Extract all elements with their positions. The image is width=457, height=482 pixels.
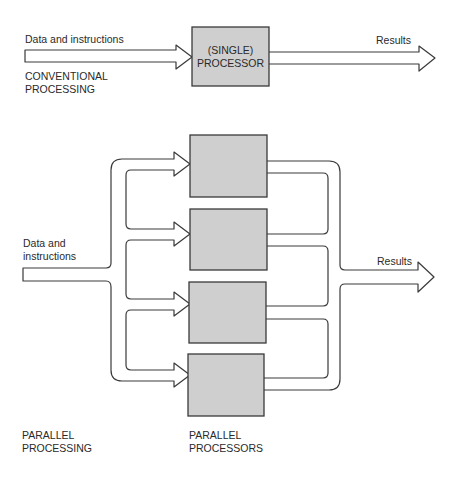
single-processor-label-1: (SINGLE): [208, 44, 254, 56]
parallel-processor-box-4: [188, 354, 264, 416]
parallel-input-label-1: Data and: [23, 237, 66, 249]
conventional-caption-1: CONVENTIONAL: [25, 70, 108, 82]
parallel-caption-2: PROCESSING: [22, 442, 92, 454]
parallel-processors-caption-1: PARALLEL: [189, 429, 241, 441]
output-collection-bus: [264, 161, 434, 390]
conventional-input-label: Data and instructions: [25, 33, 124, 45]
input-distribution-bus: [23, 152, 190, 387]
parallel-processor-box-2: [190, 209, 267, 270]
single-processor-label-2: PROCESSOR: [197, 57, 265, 69]
parallel-processor-box-3: [189, 282, 266, 343]
parallel-section: Data and instructions Results PARALLEL P…: [22, 135, 434, 454]
parallel-processor-box-1: [190, 135, 267, 197]
processing-diagram: Data and instructions (SINGLE) PROCESSOR…: [0, 0, 457, 482]
conventional-output-label: Results: [376, 34, 411, 46]
conventional-input-arrow-icon: [25, 45, 192, 69]
conventional-output-arrow-icon: [269, 46, 435, 71]
parallel-processors-caption-2: PROCESSORS: [189, 442, 263, 454]
conventional-section: Data and instructions (SINGLE) PROCESSOR…: [25, 27, 435, 95]
parallel-caption-1: PARALLEL: [22, 429, 74, 441]
parallel-input-label-2: instructions: [23, 250, 76, 262]
conventional-caption-2: PROCESSING: [25, 83, 95, 95]
parallel-output-label: Results: [377, 255, 412, 267]
